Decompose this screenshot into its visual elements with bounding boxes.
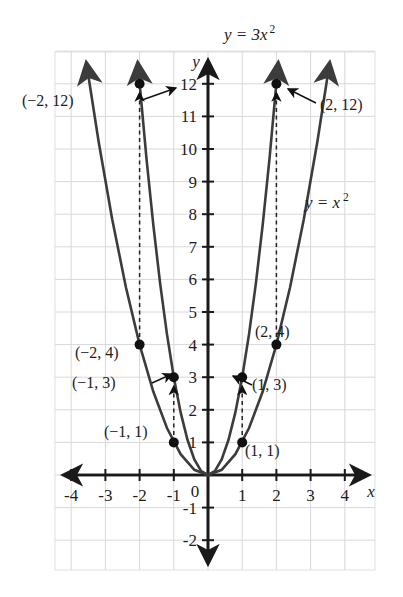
- data-point-p-2-4: [271, 340, 281, 350]
- x-tick-label: -3: [98, 486, 112, 505]
- y-tick-label: -2: [183, 531, 197, 550]
- x-tick-label: -1: [167, 486, 181, 505]
- y-tick-label: 8: [189, 205, 198, 224]
- svg-text:2: 2: [343, 191, 349, 203]
- x-axis-label: x: [366, 482, 375, 501]
- x-tick-label: 4: [341, 486, 350, 505]
- x-tick-label: -2: [133, 486, 147, 505]
- y-tick-label: 11: [181, 107, 197, 126]
- y-tick-label: 12: [180, 75, 197, 94]
- data-point-p-n1-1: [169, 437, 179, 447]
- y-tick-label: 6: [189, 270, 198, 289]
- point-label-p-2-4: (2, 4): [255, 323, 290, 341]
- y-tick-label: -1: [183, 499, 197, 518]
- point-label-p-n2-12: (−2, 12): [22, 92, 74, 110]
- svg-text:y = x: y = x: [303, 193, 341, 212]
- y-tick-label: 4: [189, 336, 198, 355]
- point-label-p-1-3: (1, 3): [252, 376, 287, 394]
- x-tick-label: 2: [272, 486, 281, 505]
- x-tick-label: -4: [64, 486, 79, 505]
- parabola-comparison-chart: -4-3-2-101234121110987654321-1-2 (−2, 12…: [0, 0, 403, 597]
- y-tick-label: 3: [189, 368, 198, 387]
- point-label-p-n2-4: (−2, 4): [75, 344, 119, 362]
- chart-figure: -4-3-2-101234121110987654321-1-2 (−2, 12…: [0, 0, 403, 597]
- svg-text:y = 3x: y = 3x: [222, 25, 268, 44]
- y-tick-label: 2: [189, 401, 198, 420]
- curve-label-y-3x2: y = 3x2: [222, 23, 276, 44]
- y-tick-label: 10: [180, 140, 197, 159]
- y-axis-label: y: [190, 52, 200, 71]
- data-point-p-n1-3: [169, 372, 179, 382]
- y-tick-label: 7: [189, 238, 198, 257]
- x-tick-label: 1: [238, 486, 247, 505]
- x-tick-label: 3: [306, 486, 315, 505]
- point-label-p-n1-1: (−1, 1): [104, 423, 148, 441]
- data-point-p-n2-12: [135, 79, 145, 89]
- svg-text:2: 2: [270, 23, 276, 35]
- point-label-p-1-1: (1, 1): [245, 442, 280, 460]
- data-point-p-n2-4: [135, 340, 145, 350]
- y-tick-label: 9: [189, 173, 198, 192]
- y-tick-label: 5: [189, 303, 198, 322]
- data-point-p-2-12: [271, 79, 281, 89]
- point-label-p-n1-3: (−1, 3): [72, 374, 116, 392]
- point-label-p-2-12: (2, 12): [320, 96, 363, 114]
